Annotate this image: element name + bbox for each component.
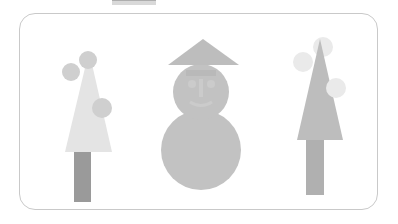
center-snowman-label: Center Snowman [0, 0, 1, 1]
canvas-handle-bar[interactable] [112, 0, 156, 5]
canvas-label: Shape illustration canvas [0, 0, 1, 1]
right-tree-label: Right Tree [0, 0, 1, 1]
illustration-card [19, 13, 378, 210]
left-tree-label: Left Tree [0, 0, 1, 1]
illustration-stage: Shape illustration canvas Left Tree Cent… [0, 0, 398, 224]
